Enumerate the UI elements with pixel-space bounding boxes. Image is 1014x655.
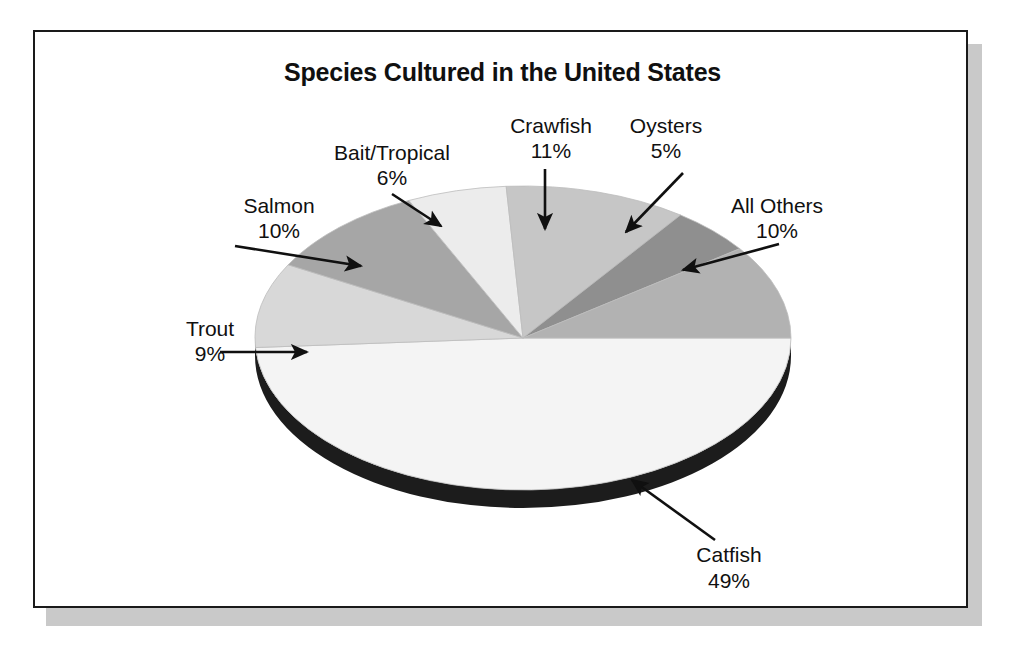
- slice-label-catfish: Catfish: [696, 543, 761, 566]
- slice-label-all-others: All Others: [731, 194, 823, 217]
- slice-label-trout: Trout: [186, 317, 234, 340]
- slice-value-bait-tropical: 6%: [377, 166, 407, 189]
- leader-arrow-catfish: [632, 480, 715, 540]
- slice-value-trout: 9%: [195, 342, 225, 365]
- pie-chart: Catfish49%Crawfish11%Salmon10%All Others…: [35, 32, 968, 608]
- slice-label-crawfish: Crawfish: [510, 114, 592, 137]
- slice-value-crawfish: 11%: [531, 139, 571, 162]
- slice-value-all-others: 10%: [756, 219, 798, 242]
- slice-value-oysters: 5%: [651, 139, 681, 162]
- pie-slices-group: [255, 186, 791, 490]
- slice-label-oysters: Oysters: [630, 114, 702, 137]
- slice-value-salmon: 10%: [258, 219, 300, 242]
- slice-label-salmon: Salmon: [243, 194, 314, 217]
- figure-frame: Species Cultured in the United States Ca…: [33, 30, 968, 608]
- slice-value-catfish: 49%: [708, 569, 750, 592]
- pie-slice-catfish[interactable]: [256, 338, 791, 490]
- slice-label-bait-tropical: Bait/Tropical: [334, 141, 450, 164]
- scanned-page: Species Cultured in the United States Ca…: [0, 0, 1014, 655]
